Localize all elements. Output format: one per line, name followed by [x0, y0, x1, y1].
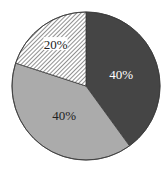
- slice-label: 20%: [44, 37, 68, 52]
- slice-label: 40%: [52, 108, 76, 123]
- pie-slices: [12, 12, 160, 160]
- pie-chart: 40%40%20%: [0, 0, 168, 172]
- slice-label: 40%: [109, 67, 133, 82]
